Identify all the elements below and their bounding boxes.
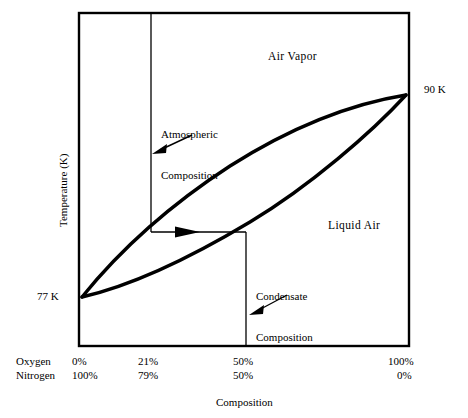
temperature-label-90k: 90 K: [424, 83, 446, 96]
region-label-air-vapor: Air Vapor: [268, 50, 317, 63]
temperature-label-77k: 77 K: [37, 290, 59, 303]
composition-axis-table: Oxygen 0% 21% 50% 100% Nitrogen 100% 79%…: [0, 355, 468, 385]
dew-point-curve: [82, 95, 406, 297]
nitrogen-tick-0: 100%: [72, 369, 98, 381]
region-label-liquid-air: Liquid Air: [328, 219, 380, 232]
plot-frame: [79, 13, 409, 346]
callout-atmospheric-line1: Atmospheric: [161, 128, 218, 142]
nitrogen-tick-100: 0%: [397, 369, 412, 381]
nitrogen-tick-21: 79%: [138, 369, 158, 381]
x-axis-title: Composition: [216, 396, 273, 408]
tie-line-arrowhead: [175, 227, 200, 238]
oxygen-tick-0: 0%: [72, 355, 87, 367]
nitrogen-tick-50: 50%: [233, 369, 253, 381]
callout-atmospheric-composition: Atmospheric Composition: [161, 101, 218, 209]
axis-row-label-nitrogen: Nitrogen: [16, 369, 55, 381]
callout-condensate-line2: Composition: [256, 331, 313, 345]
oxygen-tick-21: 21%: [138, 355, 158, 367]
callout-condensate-line1: Condensate: [256, 290, 313, 304]
oxygen-tick-50: 50%: [233, 355, 253, 367]
oxygen-tick-100: 100%: [388, 355, 414, 367]
axis-row-label-oxygen: Oxygen: [16, 355, 51, 367]
y-axis-title: Temperature (K): [57, 154, 69, 227]
bubble-point-curve: [82, 95, 406, 297]
phase-diagram-figure: Air Vapor Liquid Air Atmospheric Composi…: [0, 0, 468, 418]
axis-row-nitrogen: Nitrogen 100% 79% 50% 0%: [0, 369, 468, 383]
callout-atmospheric-line2: Composition: [161, 169, 218, 183]
axis-row-oxygen: Oxygen 0% 21% 50% 100%: [0, 355, 468, 369]
